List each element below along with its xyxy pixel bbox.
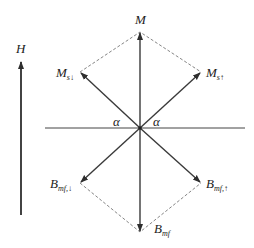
vector-b-mf-down [81, 128, 140, 182]
vector-b-mf-up [140, 128, 200, 182]
label-m-s-down: Ms↓ [56, 66, 74, 82]
label-m: M [135, 13, 146, 26]
label-b-mf-sub: mf [162, 229, 170, 238]
vector-m-s-down [81, 73, 140, 128]
label-b-mf-up-main: B [206, 176, 214, 191]
label-b-mf: Bmf [154, 222, 170, 238]
label-b-mf-up: Bmf,↑ [206, 177, 228, 193]
label-m-s-up-main: M [206, 65, 217, 80]
label-b-mf-up-sub: mf,↑ [214, 184, 228, 193]
label-alpha-right: α [153, 115, 160, 128]
label-alpha-left-text: α [113, 114, 120, 129]
label-m-s-down-main: M [56, 65, 67, 80]
label-m-text: M [135, 12, 146, 27]
label-m-s-down-sub: s↓ [67, 73, 74, 82]
label-h-text: H [16, 41, 25, 56]
origin-point [138, 126, 142, 130]
vector-diagram [0, 0, 254, 248]
label-alpha-right-text: α [153, 114, 160, 129]
label-b-mf-down: Bmf,↓ [50, 177, 72, 193]
vector-m-s-up [140, 73, 200, 128]
label-h: H [16, 42, 25, 55]
label-b-mf-down-sub: mf,↓ [58, 184, 72, 193]
label-b-mf-main: B [154, 221, 162, 236]
label-m-s-up: Ms↑ [206, 66, 224, 82]
label-b-mf-down-main: B [50, 176, 58, 191]
label-m-s-up-sub: s↑ [217, 73, 224, 82]
label-alpha-left: α [113, 115, 120, 128]
